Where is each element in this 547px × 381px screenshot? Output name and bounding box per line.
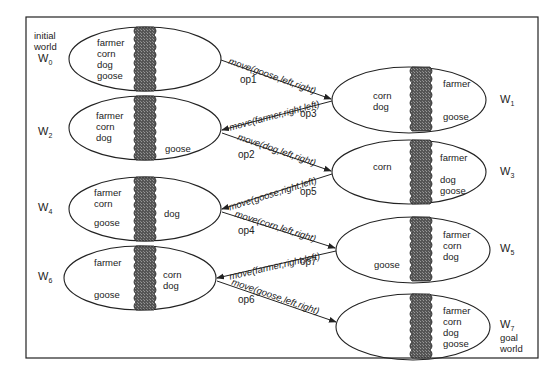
river-w3 (410, 140, 432, 204)
river-w2 (134, 96, 156, 160)
op1-label: op1 (240, 74, 257, 85)
world-label-w4: W4 (38, 201, 52, 215)
op4-label: op4 (238, 225, 255, 236)
river-w5 (410, 217, 432, 281)
w6-right-bank: corndog (163, 269, 181, 291)
w3-right-bank: farmerdoggoose (440, 152, 467, 196)
op7-label: op7 (300, 256, 317, 267)
w0-left-bank: farmercorndoggoose (97, 37, 124, 81)
w1-left-bank: corndog (373, 90, 391, 112)
op5-label: op5 (300, 186, 317, 197)
op2-label: op2 (238, 149, 255, 160)
op6-label: op6 (238, 294, 255, 305)
initial-world-label: initial world (34, 30, 57, 52)
w1-right-bank: farmergoose (443, 78, 470, 122)
op3-label: op3 (300, 108, 317, 119)
world-label-w5: W5 (500, 242, 514, 256)
goal-world-label: goal world (500, 332, 523, 354)
world-label-w2: W2 (38, 125, 52, 139)
w5-right-bank: farmercorndog (443, 229, 470, 262)
world-label-w0: W0 (38, 52, 52, 66)
w6-left-bank: farmergoose (94, 257, 121, 300)
w3-left-bank: corn (373, 161, 391, 172)
w4-left-bank: farmercorngoose (94, 187, 121, 228)
world-label-w3: W3 (500, 165, 514, 179)
w2-right-bank: goose (165, 143, 191, 154)
river-w4 (134, 177, 156, 241)
w2-left-bank: farmercorndog (96, 110, 123, 143)
river-w6 (134, 246, 156, 310)
world-label-w6: W6 (38, 270, 52, 284)
w7-right-bank: farmercorndoggoose (443, 305, 470, 349)
world-label-w7: W7 (500, 318, 514, 332)
river-w0 (134, 27, 156, 91)
river-w1 (410, 67, 432, 131)
w4-right-bank: dog (164, 208, 180, 219)
river-w7 (410, 294, 432, 358)
world-label-w1: W1 (500, 93, 514, 107)
w5-left-bank: goose (374, 259, 400, 270)
